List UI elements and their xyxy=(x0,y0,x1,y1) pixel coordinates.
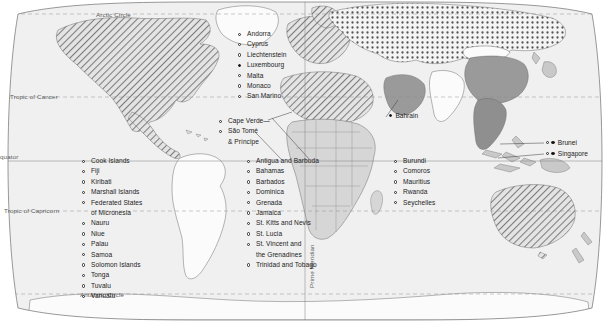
marker-dot-icon xyxy=(82,218,91,228)
world-map-figure: Arctic Circle Tropic of Cancer quator Tr… xyxy=(0,0,610,323)
list-item: of Micronesia xyxy=(82,208,142,218)
list-item-label: of Micronesia xyxy=(91,208,131,218)
list-item-label: Federated States xyxy=(91,198,142,208)
marker-dot-icon xyxy=(82,270,91,280)
marker-dot-icon xyxy=(82,177,91,187)
list-item-label: Seychelles xyxy=(403,198,435,208)
marker-spacer xyxy=(82,208,91,218)
list-item: Vanuatu xyxy=(82,291,142,301)
marker-dot-icon xyxy=(247,156,256,166)
list-item-label: Nauru xyxy=(91,218,109,228)
hollow-dot-icon xyxy=(82,253,85,256)
marker-dot-icon xyxy=(546,152,555,155)
map-pin-label: Singapore xyxy=(558,150,588,157)
list-item: Jamaica xyxy=(247,208,319,218)
hollow-dot-icon xyxy=(394,160,397,163)
list-item: Comoros xyxy=(394,166,435,176)
map-pin-label: Bahrain xyxy=(395,112,418,119)
list-item-label: São Tomé xyxy=(228,126,258,136)
hollow-dot-icon xyxy=(82,243,85,246)
hollow-dot-icon xyxy=(219,120,222,123)
list-item: Solomon Islands xyxy=(82,260,142,270)
hollow-dot-icon xyxy=(394,191,397,194)
list-item: Luxembourg xyxy=(238,60,287,70)
list-item: Niue xyxy=(82,229,142,239)
marker-dot-icon xyxy=(389,114,392,117)
marker-dot-icon xyxy=(394,156,403,166)
hollow-dot-icon xyxy=(247,180,250,183)
map-pin-label: Brunei xyxy=(558,139,577,146)
map-pin-singapore: Singapore xyxy=(546,150,588,157)
hollow-dot-icon xyxy=(82,191,85,194)
marker-dot-icon xyxy=(247,208,256,218)
hollow-dot-icon xyxy=(82,263,85,266)
list-item: Marshall Islands xyxy=(82,187,142,197)
list-item: Mauritius xyxy=(394,177,435,187)
list-item: Federated States xyxy=(82,198,142,208)
graticule-label: quator xyxy=(0,153,18,160)
hollow-dot-icon xyxy=(247,222,250,225)
hollow-dot-icon xyxy=(238,43,241,46)
marker-dot-icon xyxy=(82,187,91,197)
list-item-label: Rwanda xyxy=(403,187,428,197)
hollow-dot-icon xyxy=(82,170,85,173)
hollow-dot-icon xyxy=(247,201,250,204)
list-item-label: Andorra xyxy=(247,29,271,39)
list-item-label: Cook Islands xyxy=(91,156,130,166)
hollow-dot-icon xyxy=(238,84,241,87)
graticule-label: Tropic of Capricorn xyxy=(4,207,59,214)
marker-dot-icon xyxy=(238,29,247,39)
marker-dot-icon xyxy=(394,177,403,187)
hollow-dot-icon xyxy=(247,243,250,246)
marker-dot-icon xyxy=(82,291,91,301)
list-item-label: Palau xyxy=(91,239,108,249)
list-item-label: Cyprus xyxy=(247,39,268,49)
list-item-label: Burundi xyxy=(403,156,426,166)
list-item-label: Luxembourg xyxy=(247,60,284,70)
hollow-dot-icon xyxy=(219,130,222,133)
map-pin-bahrain: Bahrain xyxy=(389,112,418,119)
list-item-label: Samoa xyxy=(91,250,112,260)
list-item-label: St. Kitts and Nevis xyxy=(256,218,311,228)
list-item-label: Cape Verde— xyxy=(228,116,270,126)
marker-spacer xyxy=(219,137,228,147)
filled-dot-icon xyxy=(238,64,241,67)
list-item-label: Vanuatu xyxy=(91,291,115,301)
list-item: St. Vincent and xyxy=(247,239,319,249)
marker-dot-icon xyxy=(394,198,403,208)
hollow-dot-icon xyxy=(394,170,397,173)
hollow-dot-icon xyxy=(247,232,250,235)
list-item: Cook Islands xyxy=(82,156,142,166)
list-item-label: St. Vincent and xyxy=(256,239,301,249)
hollow-dot-icon xyxy=(82,284,85,287)
map-pin-brunei: Brunei xyxy=(546,139,577,146)
list-item: Bahamas xyxy=(247,166,319,176)
marker-dot-icon xyxy=(546,141,555,144)
hollow-dot-icon xyxy=(394,201,397,204)
hollow-dot-icon xyxy=(82,274,85,277)
marker-dot-icon xyxy=(82,198,91,208)
marker-spacer xyxy=(247,250,256,260)
marker-dot-icon xyxy=(247,166,256,176)
label-group-africa-indian-ocean-states: BurundiComorosMauritiusRwandaSeychelles xyxy=(394,156,435,208)
list-item: Tonga xyxy=(82,270,142,280)
marker-dot-icon xyxy=(219,116,228,126)
list-item: St. Kitts and Nevis xyxy=(247,218,319,228)
marker-dot-icon xyxy=(238,71,247,81)
marker-dot-icon xyxy=(247,218,256,228)
hollow-dot-icon xyxy=(82,222,85,225)
filled-dot-icon xyxy=(551,152,554,155)
hollow-dot-icon xyxy=(247,263,250,266)
marker-dot-icon xyxy=(247,260,256,270)
hollow-dot-icon xyxy=(82,160,85,163)
filled-dot-icon xyxy=(389,114,392,117)
label-group-pacific-islands: Cook IslandsFijiKiribatiMarshall Islands… xyxy=(82,156,142,301)
list-item-label: Liechtenstein xyxy=(247,50,287,60)
list-item-label: & Príncipe xyxy=(228,137,259,147)
list-item: Kiribati xyxy=(82,177,142,187)
hollow-dot-icon xyxy=(238,95,241,98)
hollow-dot-icon xyxy=(394,180,397,183)
marker-dot-icon xyxy=(247,198,256,208)
list-item-label: Monaco xyxy=(247,81,271,91)
list-item: Trinidad and Tobago xyxy=(247,260,319,270)
